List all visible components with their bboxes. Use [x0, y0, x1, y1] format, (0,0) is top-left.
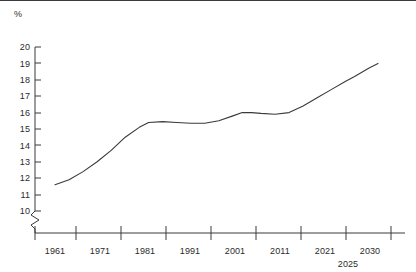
y-tick-marks: [35, 47, 41, 211]
chart-plot-area: [0, 1, 416, 272]
series-line-percentage: [55, 63, 378, 184]
chart-figure: % 20 19 18 17 16 15 14 13 12 11 10 1961 …: [0, 0, 416, 272]
